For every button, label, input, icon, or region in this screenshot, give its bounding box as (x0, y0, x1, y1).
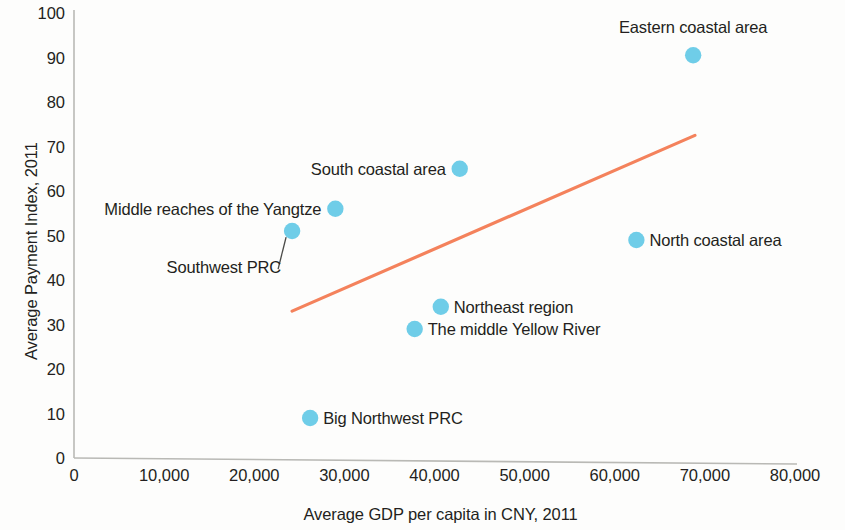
x-tick-label: 0 (69, 466, 78, 485)
y-tick-label: 20 (47, 360, 65, 379)
x-axis-title: Average GDP per capita in CNY, 2011 (0, 505, 845, 524)
data-point-label: Northeast region (454, 297, 574, 316)
y-tick-label: 40 (47, 271, 65, 290)
data-point-label: Southwest PRC (167, 258, 282, 277)
scatter-chart: 0102030405060708090100 010,00020,00030,0… (0, 0, 845, 530)
y-tick-label: 100 (37, 4, 65, 23)
x-tick-label: 70,000 (680, 466, 730, 485)
data-point-label: Big Northwest PRC (323, 408, 463, 427)
data-point-marker (628, 232, 644, 248)
data-point-label: Middle reaches of the Yangtze (104, 199, 321, 218)
data-point-marker (406, 321, 422, 337)
data-point-marker (433, 299, 449, 315)
y-tick-label: 50 (47, 226, 65, 245)
data-point-marker (685, 47, 701, 63)
x-tick-label: 50,000 (499, 466, 549, 485)
y-axis-title: Average Payment Index, 2011 (22, 142, 41, 360)
data-point-label: South coastal area (311, 159, 446, 178)
y-tick-label: 0 (56, 449, 65, 468)
data-point-label: North coastal area (649, 230, 781, 249)
data-point-marker (327, 201, 343, 217)
y-tick-label: 60 (47, 182, 65, 201)
y-tick-label: 30 (47, 315, 65, 334)
x-tick-label: 80,000 (770, 466, 820, 485)
data-point-marker (452, 161, 468, 177)
x-tick-label: 60,000 (590, 466, 640, 485)
y-tick-label: 10 (47, 404, 65, 423)
x-tick-label: 10,000 (139, 466, 189, 485)
y-tick-label: 70 (47, 137, 65, 156)
data-point-marker (302, 410, 318, 426)
data-point-label: Eastern coastal area (619, 18, 767, 37)
x-tick-label: 20,000 (229, 466, 279, 485)
x-axis-line (74, 458, 797, 464)
data-point-label: The middle Yellow River (428, 319, 601, 338)
x-tick-label: 30,000 (319, 466, 369, 485)
data-point-marker (284, 223, 300, 239)
y-tick-label: 90 (47, 48, 65, 67)
x-tick-label: 40,000 (409, 466, 459, 485)
data-points (284, 47, 701, 426)
y-tick-label: 80 (47, 93, 65, 112)
plot-area (0, 0, 845, 530)
